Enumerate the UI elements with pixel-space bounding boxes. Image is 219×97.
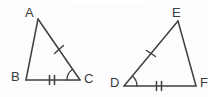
vertex-label-e: E (172, 6, 181, 19)
side-ef (178, 21, 196, 86)
triangle-abc (26, 19, 80, 85)
angle-arc-c (67, 69, 73, 80)
tick-mark-single-ac (55, 46, 64, 54)
side-ab (26, 19, 38, 80)
tick-mark-single-de (147, 51, 156, 57)
angle-arc-d (132, 76, 137, 86)
triangle-def (124, 21, 196, 91)
vertex-label-d: D (110, 76, 119, 89)
geometry-figure: A B C E D F (0, 0, 219, 97)
vertex-label-b: B (11, 70, 20, 83)
vertex-label-a: A (25, 6, 34, 19)
vertex-label-f: F (200, 76, 208, 89)
vertex-label-c: C (84, 72, 93, 85)
